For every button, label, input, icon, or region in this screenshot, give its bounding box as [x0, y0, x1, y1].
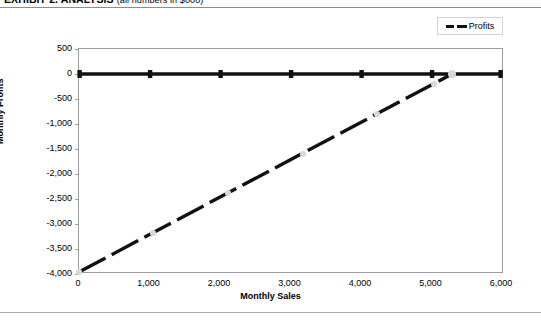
series-zero-line — [77, 70, 502, 78]
y-tick-label: -3,000 — [46, 218, 72, 228]
page-title-parenthetical: (all numbers in $000) — [117, 0, 204, 5]
footer-divider — [0, 312, 541, 313]
y-tick-label: 500 — [57, 43, 72, 53]
x-axis-title: Monthly Sales — [0, 291, 541, 301]
legend-label-profits: Profits — [469, 22, 495, 31]
y-axis-tick-labels: 500 0 -500 -1,000 -1,500 -2,000 -2,500 -… — [0, 48, 72, 273]
chart-legend: Profits — [437, 17, 503, 35]
y-tick-label: -4,000 — [46, 268, 72, 278]
x-tick-label: 2,000 — [208, 278, 231, 288]
x-tick-label: 0 — [75, 278, 80, 288]
plot-area — [78, 48, 503, 273]
y-tick-label: -3,500 — [46, 243, 72, 253]
x-tick-label: 3,000 — [278, 278, 301, 288]
page-title: EXHIBIT 2. ANALYSIS (all numbers in $000… — [4, 0, 203, 5]
page-title-main: EXHIBIT 2. ANALYSIS — [4, 0, 114, 5]
chart-canvas — [79, 49, 502, 272]
chart-page: EXHIBIT 2. ANALYSIS (all numbers in $000… — [0, 0, 541, 327]
legend-line-swatch — [446, 22, 468, 31]
y-tick-label: -500 — [54, 93, 72, 103]
y-tick-label: -1,000 — [46, 118, 72, 128]
y-tick-label: -2,500 — [46, 193, 72, 203]
header-divider — [0, 7, 541, 8]
x-tick-label: 1,000 — [137, 278, 160, 288]
series-profits — [76, 70, 456, 275]
x-tick-label: 6,000 — [490, 278, 513, 288]
x-tick-label: 4,000 — [349, 278, 372, 288]
y-tick-label: -1,500 — [46, 143, 72, 153]
x-axis-tick-labels: 0 1,000 2,000 3,000 4,000 5,000 6,000 — [78, 278, 503, 292]
x-tick-label: 5,000 — [419, 278, 442, 288]
y-tick-label: 0 — [67, 68, 72, 78]
y-tick-label: -2,000 — [46, 168, 72, 178]
